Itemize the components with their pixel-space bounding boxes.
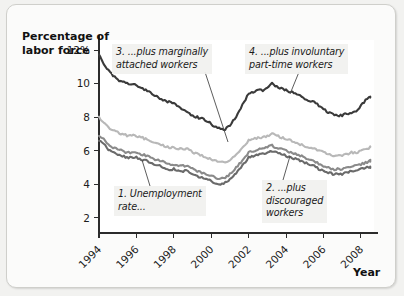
x-tick-label: 2002 bbox=[226, 243, 253, 270]
y-tick-label: 4 bbox=[83, 178, 90, 190]
x-tick-label: 2006 bbox=[301, 243, 329, 271]
annotation-unemployment-rate: 1. Unemployment rate... bbox=[114, 186, 206, 216]
y-tick-label: 2 bbox=[83, 212, 90, 224]
y-tick-label: 6 bbox=[83, 145, 90, 157]
x-tick-label: 1998 bbox=[151, 243, 178, 270]
y-axis: 24681012% bbox=[67, 35, 99, 233]
x-tick-label: 2004 bbox=[263, 243, 291, 271]
leader-line-2 bbox=[283, 156, 290, 180]
series-line-plus_marginally_attached bbox=[99, 117, 370, 163]
series-line-unemployment_rate bbox=[99, 141, 370, 185]
chart-figure: 24681012% 199419961998200020022004200620… bbox=[0, 0, 404, 296]
annotation-plus-involuntary-parttime: 4. ...plus involuntary part-time workers bbox=[245, 44, 348, 74]
y-tick-label: 10 bbox=[77, 77, 90, 89]
leader-line-3 bbox=[205, 72, 228, 142]
x-tick-label: 1994 bbox=[76, 243, 104, 271]
leader-line-1 bbox=[142, 160, 150, 186]
y-axis-title: Percentage of labor force bbox=[22, 30, 109, 58]
y-tick-label: 8 bbox=[83, 111, 90, 123]
annotation-plus-marginally-attached: 3. ...plus marginally attached workers bbox=[112, 44, 212, 74]
x-axis-title: Year bbox=[353, 266, 380, 280]
x-tick-label: 2000 bbox=[188, 243, 215, 270]
leader-line-4 bbox=[290, 72, 299, 94]
x-axis: 19941996199820002002200420062008 bbox=[76, 233, 378, 270]
annotation-plus-discouraged: 2. ...plus discouraged workers bbox=[262, 180, 327, 223]
x-tick-label: 1996 bbox=[113, 243, 141, 271]
